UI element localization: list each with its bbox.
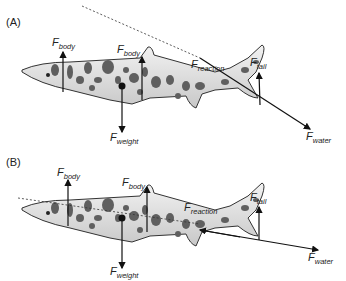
center-of-mass-dot — [119, 83, 126, 90]
f-tail-arrow — [259, 73, 260, 105]
f-reaction-arrow — [200, 230, 240, 237]
shark-force-diagram: (A) Fbody Fbody Fweight Freaction Ftail … — [0, 0, 346, 281]
panel-a: (A) Fbody Fbody Fweight Freaction Ftail … — [6, 6, 332, 146]
panel-b-label: (B) — [6, 156, 21, 168]
f-weight-label: Fweight — [110, 131, 139, 146]
panel-b: (B) Fbody Fbody Fweight Freaction Ftail … — [6, 156, 334, 280]
f-body-mid-label: Fbody — [122, 176, 146, 191]
f-water-label: Fwater — [306, 130, 332, 145]
shark-illustration-b — [22, 183, 264, 246]
f-body-mid-label: Fbody — [117, 43, 141, 58]
panel-a-label: (A) — [6, 16, 21, 28]
f-body-front-label: Fbody — [57, 166, 81, 181]
center-of-mass-dot — [119, 215, 126, 222]
f-body-front-label: Fbody — [52, 36, 76, 51]
f-weight-label: Fweight — [110, 265, 139, 280]
dashed-axis-line — [82, 6, 200, 58]
f-water-label: Fwater — [308, 251, 334, 266]
